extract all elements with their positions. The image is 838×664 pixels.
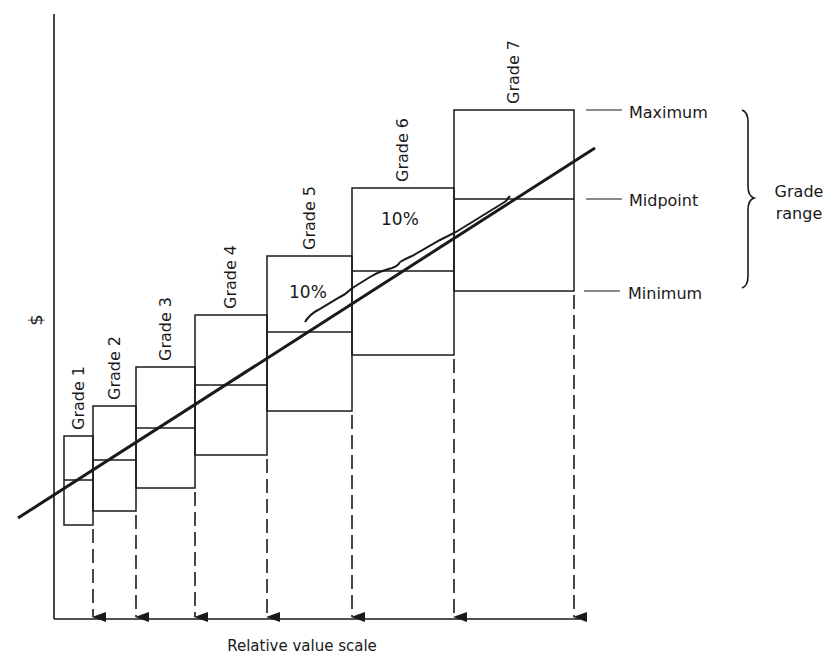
maximum-label: Maximum [629, 103, 708, 122]
grade-5-label: Grade 5 [300, 186, 319, 250]
grade-range-label-line2: range [776, 204, 823, 223]
grade-4-label: Grade 4 [221, 245, 240, 309]
grade-3-label: Grade 3 [156, 297, 175, 361]
grade-2-box [93, 406, 136, 511]
grade-6-label: Grade 6 [393, 118, 412, 182]
x-axis-label: Relative value scale [227, 637, 377, 655]
y-axis-label: $ [25, 314, 46, 325]
grade-range-brace [742, 110, 754, 288]
grade-2-label: Grade 2 [105, 336, 124, 400]
grade-5-box [267, 256, 352, 411]
minimum-label: Minimum [628, 284, 702, 303]
annotation-10pct-1: 10% [289, 282, 327, 302]
grade-boxes [64, 110, 574, 525]
brace-10pct-grade6 [400, 196, 510, 262]
grade-range-diagram: Grade 1Grade 2Grade 3Grade 4Grade 5Grade… [0, 0, 838, 664]
grade-range-label-line1: Grade [775, 182, 824, 201]
midpoint-label: Midpoint [629, 191, 698, 210]
grade-7-label: Grade 7 [504, 40, 523, 104]
grade-1-label: Grade 1 [69, 366, 88, 430]
annotation-10pct-2: 10% [381, 209, 419, 229]
